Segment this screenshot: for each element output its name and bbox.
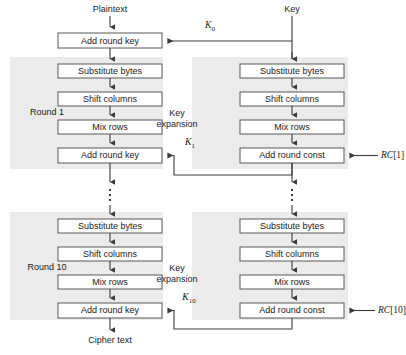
rc-1-label: RC[1]	[380, 150, 404, 160]
initial-add-round-key-box: Add round key	[58, 33, 162, 48]
round10-cipher-box-shift-columns: Shift columns	[58, 247, 162, 261]
initial-add-round-key-text: Add round key	[81, 36, 140, 46]
round1-key-box-substitute-bytes: Substitute bytes	[240, 64, 344, 78]
round10-key-text-3: Add round const	[259, 305, 325, 315]
ciphertext-label: Cipher text	[88, 335, 132, 345]
key-expansion-1-label-line2: expansion	[156, 119, 197, 129]
round10-key-text-2: Mix rows	[274, 277, 310, 287]
round1-cipher-text-1: Shift columns	[83, 94, 138, 104]
round10-key-box-substitute-bytes: Substitute bytes	[240, 219, 344, 233]
connector-key-to-initial-ark	[168, 16, 292, 41]
round10-cipher-text-3: Add round key	[81, 305, 140, 315]
round10-cipher-box-add-round-key: Add round key	[58, 303, 162, 318]
key-expansion-10-label-line1: Key	[169, 263, 185, 273]
round1-cipher-box-substitute-bytes: Substitute bytes	[58, 64, 162, 78]
round1-key-text-0: Substitute bytes	[260, 66, 325, 76]
round10-key-box-mix-rows: Mix rows	[240, 275, 344, 289]
round-1-group-label: Round 1	[30, 107, 64, 117]
round10-cipher-text-2: Mix rows	[92, 277, 128, 287]
round10-key-text-1: Shift columns	[265, 249, 320, 259]
rc-10-label: RC[10]	[377, 305, 406, 315]
key-expansion-1-label-line1: Key	[169, 108, 185, 118]
round1-cipher-text-2: Mix rows	[92, 122, 128, 132]
round1-key-text-3: Add round const	[259, 150, 325, 160]
round1-cipher-box-mix-rows: Mix rows	[58, 120, 162, 134]
left-vertical-ellipsis-icon	[109, 189, 111, 201]
aes-diagram-root: Plaintext Key K0 Add round key Substitut…	[0, 0, 406, 355]
round1-cipher-box-shift-columns: Shift columns	[58, 92, 162, 106]
round1-key-text-1: Shift columns	[265, 94, 320, 104]
round10-key-box-shift-columns: Shift columns	[240, 247, 344, 261]
aes-block-diagram: Plaintext Key K0 Add round key Substitut…	[0, 0, 406, 355]
k0-label: K0	[204, 20, 215, 32]
round1-cipher-text-3: Add round key	[81, 150, 140, 160]
round1-cipher-box-add-round-key: Add round key	[58, 148, 162, 163]
round10-cipher-box-substitute-bytes: Substitute bytes	[58, 219, 162, 233]
round1-key-box-mix-rows: Mix rows	[240, 120, 344, 134]
right-vertical-ellipsis-icon	[291, 189, 293, 201]
round-10-group-label: Round 10	[27, 262, 66, 272]
round1-cipher-text-0: Substitute bytes	[78, 66, 143, 76]
round1-key-text-2: Mix rows	[274, 122, 310, 132]
key-expansion-10-label-line2: expansion	[156, 274, 197, 284]
round1-key-box-shift-columns: Shift columns	[240, 92, 344, 106]
round10-key-box-add-round-const: Add round const	[240, 303, 344, 318]
round10-cipher-box-mix-rows: Mix rows	[58, 275, 162, 289]
round10-cipher-text-1: Shift columns	[83, 249, 138, 259]
round1-key-box-add-round-const: Add round const	[240, 148, 344, 163]
plaintext-label: Plaintext	[93, 4, 128, 14]
key-label: Key	[284, 4, 300, 14]
round10-cipher-text-0: Substitute bytes	[78, 221, 143, 231]
round10-key-text-0: Substitute bytes	[260, 221, 325, 231]
